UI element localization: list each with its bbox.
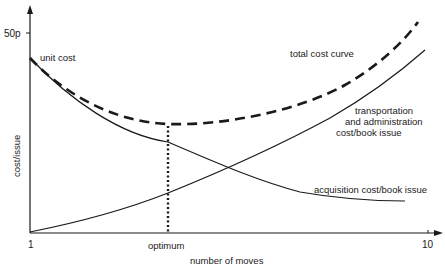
cost-chart: 50p unit cost cost/issue 1 10 optimum nu… [0, 0, 445, 268]
y-axis-arrow-icon [27, 5, 33, 14]
y-tick-50p: 50p [4, 28, 21, 39]
y-axis-label: cost/issue [11, 135, 22, 177]
transport-label-line2: and administration [345, 116, 423, 127]
unit-cost-label: unit cost [40, 52, 76, 63]
transport-label-line1: transportation [355, 105, 413, 116]
x-axis-arrow-icon [434, 230, 443, 236]
total-cost-label: total cost curve [290, 48, 354, 59]
x-tick-1: 1 [28, 239, 34, 250]
x-tick-10: 10 [422, 239, 434, 250]
x-axis [30, 230, 443, 236]
transport-label-line3: cost/book issue [336, 127, 401, 138]
acquisition-label: acquisition cost/book issue [314, 184, 427, 195]
x-axis-label: number of moves [190, 255, 264, 266]
optimum-label: optimum [148, 240, 185, 251]
y-axis [26, 5, 33, 233]
transport-admin-cost-curve [30, 50, 425, 232]
